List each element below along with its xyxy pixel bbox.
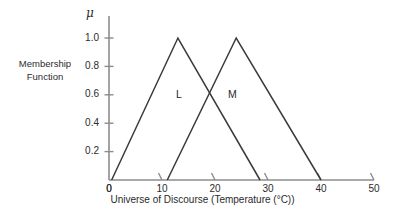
y-axis-tick-label: 0.6 xyxy=(69,88,99,99)
x-axis-tick xyxy=(212,173,216,180)
x-axis-tick-label: 10 xyxy=(150,183,174,194)
x-axis-tick-label: 20 xyxy=(203,183,227,194)
y-axis-tick-label: 1.0 xyxy=(69,32,99,43)
fuzzy-set-label-m: M xyxy=(228,88,237,100)
x-axis-tick xyxy=(159,173,163,180)
y-axis-tick-label: 0.8 xyxy=(69,60,99,71)
x-axis-tick xyxy=(265,173,269,180)
membership-function-chart: Membership Function μ Universe of Discou… xyxy=(0,0,405,215)
x-axis-tick xyxy=(371,173,375,180)
fuzzy-set-label-l: L xyxy=(176,88,182,100)
y-axis-tick-label: 0.4 xyxy=(69,117,99,128)
x-axis-tick-label: 40 xyxy=(309,183,333,194)
membership-curve-l xyxy=(112,38,260,180)
y-axis-tick-label: 0.2 xyxy=(69,145,99,156)
x-axis-tick-label: 50 xyxy=(362,183,386,194)
x-axis-title: Universe of Discourse (Temperature (°C)) xyxy=(0,194,405,205)
x-axis-tick-label: 30 xyxy=(256,183,280,194)
origin-label: 0 xyxy=(97,183,121,194)
